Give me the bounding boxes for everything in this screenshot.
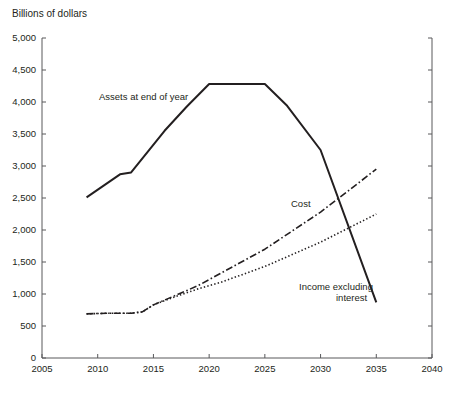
series-group [87,84,377,314]
y-tick-label: 4,500 [12,64,36,75]
y-tick-label: 3,000 [12,160,36,171]
y-tick-label: 5,000 [12,32,36,43]
x-tick-label: 2015 [143,363,164,374]
y-tick-label: 4,000 [12,96,36,107]
series-label: interest [336,292,368,303]
x-tick-label: 2025 [254,363,275,374]
y-tick-label: 2,500 [12,192,36,203]
y-tick-label: 0 [31,352,36,363]
x-axis-ticks: 20052010201520202025203020352040 [31,354,442,374]
y-tick-label: 2,000 [12,224,36,235]
y-tick-label: 1,500 [12,256,36,267]
x-tick-label: 2030 [310,363,331,374]
y-tick-label: 1,000 [12,288,36,299]
x-tick-label: 2040 [421,363,442,374]
y-tick-label: 3,500 [12,128,36,139]
axis-frame [42,38,432,358]
chart-container: Billions of dollars 05001,0001,5002,0002… [0,0,457,399]
line-chart-plot: 05001,0001,5002,0002,5003,0003,5004,0004… [0,0,457,399]
x-tick-label: 2005 [31,363,52,374]
series-line-income-excluding-interest [87,214,377,314]
x-tick-label: 2020 [199,363,220,374]
series-label: Income excluding [299,281,373,292]
series-line-assets-at-end-of-year [87,84,377,302]
series-label: Cost [291,198,311,209]
series-line-cost [87,169,377,314]
x-tick-label: 2010 [87,363,108,374]
series-label: Assets at end of year [99,91,188,102]
series-annotations: Assets at end of yearCostIncome excludin… [99,91,373,303]
x-tick-label: 2035 [366,363,387,374]
y-tick-label: 500 [20,320,36,331]
y-axis-ticks: 05001,0001,5002,0002,5003,0003,5004,0004… [12,32,432,363]
